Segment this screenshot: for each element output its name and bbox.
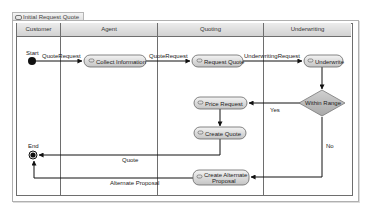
- end-label: End: [28, 143, 39, 149]
- edge-decision-no[interactable]: [251, 117, 322, 177]
- edge-label-underwritingrequest: UnderwritingRequest: [244, 53, 300, 59]
- underwrite-label: Underwrite: [315, 59, 345, 65]
- start-node[interactable]: [28, 57, 36, 65]
- end-node[interactable]: [29, 151, 37, 159]
- edge-label-quote: Quote: [122, 157, 139, 163]
- request-quote-label: Request Quote: [204, 59, 245, 65]
- create-alternate-label-line1: Create Alternate: [204, 172, 248, 178]
- edge-quote-to-end[interactable]: [39, 137, 220, 155]
- create-alternate-label-line2: Proposal: [212, 178, 236, 184]
- start-label: Start: [26, 50, 39, 56]
- edge-label-alternate-proposal: Alternate Proposal: [110, 180, 159, 186]
- diagram-canvas: Start End Collect Information Request Qu…: [0, 0, 366, 209]
- edge-alt-to-end[interactable]: [34, 161, 193, 178]
- price-request-label: Price Request: [205, 101, 243, 107]
- within-range-label: Within Range: [305, 100, 342, 106]
- create-quote-label: Create Quote: [205, 131, 242, 137]
- collect-information-label: Collect Information: [96, 59, 146, 65]
- edge-label-quoterequest-2: QuoteRequest: [149, 53, 188, 59]
- edge-label-yes: Yes: [270, 107, 280, 113]
- edge-label-no: No: [326, 143, 334, 149]
- edge-label-quoterequest-1: QuoteRequest: [42, 53, 81, 59]
